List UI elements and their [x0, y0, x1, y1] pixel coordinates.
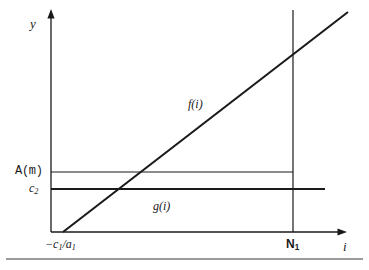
x-tick-n1-subscript: 1	[295, 243, 300, 252]
curve-label-g: g(i)	[153, 200, 170, 212]
y-axis-label: y	[30, 17, 36, 30]
y-tick-a-m-suffix: )	[36, 164, 43, 178]
figure-graphics	[0, 0, 369, 270]
y-tick-label-a-m: A(m)	[15, 165, 43, 177]
x-tick-intercept-den-subscript: 1	[72, 243, 76, 252]
x-tick-n1-base: N	[286, 237, 295, 251]
curve-f-line	[63, 12, 348, 232]
x-tick-label-intercept: −c1/a1	[45, 238, 76, 252]
x-axis-label: i	[343, 240, 347, 253]
y-tick-label-c2: c2	[29, 182, 38, 196]
x-axis	[51, 228, 347, 235]
curve-label-f: f(i)	[188, 98, 203, 110]
x-tick-intercept-sign: −	[45, 237, 53, 251]
y-tick-c2-subscript: 2	[34, 187, 38, 196]
x-tick-label-n1: N1	[286, 238, 299, 252]
y-axis	[47, 9, 54, 232]
y-tick-a-m-arg: m	[29, 164, 36, 178]
y-tick-a-m-prefix: A(	[15, 164, 29, 178]
figure-canvas: y i f(i) g(i) A(m) c2 −c1/a1 N1	[0, 0, 369, 270]
